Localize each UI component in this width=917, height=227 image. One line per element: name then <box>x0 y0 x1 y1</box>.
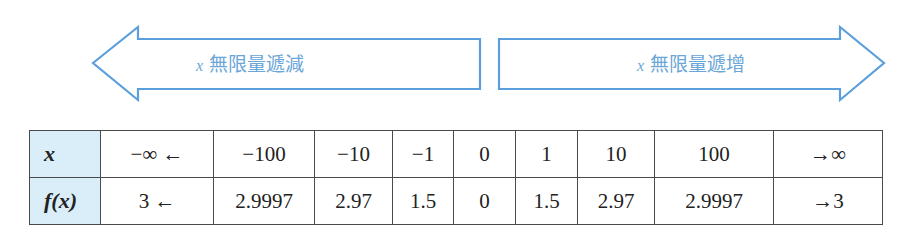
table-cell: −∞ ← <box>101 131 214 178</box>
increasing-text: 無限量遞增 <box>650 54 745 75</box>
table-cell: −1 <box>393 131 454 178</box>
increasing-label: x無限量遞增 <box>637 49 745 76</box>
table-cell: 1.5 <box>516 178 578 225</box>
table-cell: →∞ <box>774 131 883 178</box>
row-header-x: x <box>30 131 101 178</box>
table-cell: −10 <box>315 131 393 178</box>
table-cell: 1.5 <box>393 178 454 225</box>
table-cell: 2.9997 <box>214 178 315 225</box>
table-cell: 10 <box>578 131 655 178</box>
table-cell: 2.97 <box>578 178 655 225</box>
table-cell: 100 <box>655 131 774 178</box>
table-row-x: x −∞ ← −100 −10 −1 0 1 10 100 →∞ <box>30 131 883 178</box>
x-variable: x <box>637 57 644 74</box>
table-cell: 1 <box>516 131 578 178</box>
x-variable: x <box>196 57 203 74</box>
table-cell: 0 <box>454 178 516 225</box>
direction-arrows <box>0 0 917 125</box>
table-cell: 2.9997 <box>655 178 774 225</box>
table-row-fx: f(x) 3 ← 2.9997 2.97 1.5 0 1.5 2.97 2.99… <box>30 178 883 225</box>
table-cell: 2.97 <box>315 178 393 225</box>
table-cell: 3 ← <box>101 178 214 225</box>
decreasing-text: 無限量遞減 <box>209 54 304 75</box>
values-table: x −∞ ← −100 −10 −1 0 1 10 100 →∞ f(x) 3 … <box>29 130 883 225</box>
row-header-fx: f(x) <box>30 178 101 225</box>
table-cell: −100 <box>214 131 315 178</box>
table-cell: →3 <box>774 178 883 225</box>
table-cell: 0 <box>454 131 516 178</box>
decreasing-label: x無限量遞減 <box>196 49 304 76</box>
